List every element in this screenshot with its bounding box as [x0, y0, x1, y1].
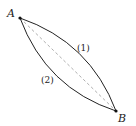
curve-1-label: (1) — [77, 43, 90, 53]
point-b-label: B — [117, 112, 126, 125]
point-a-dot — [18, 16, 21, 19]
dashed-chord — [20, 18, 116, 111]
path-diagram: A B (1) (2) — [0, 0, 136, 126]
point-a-label: A — [6, 7, 15, 20]
curve-2-label: (2) — [41, 75, 54, 85]
